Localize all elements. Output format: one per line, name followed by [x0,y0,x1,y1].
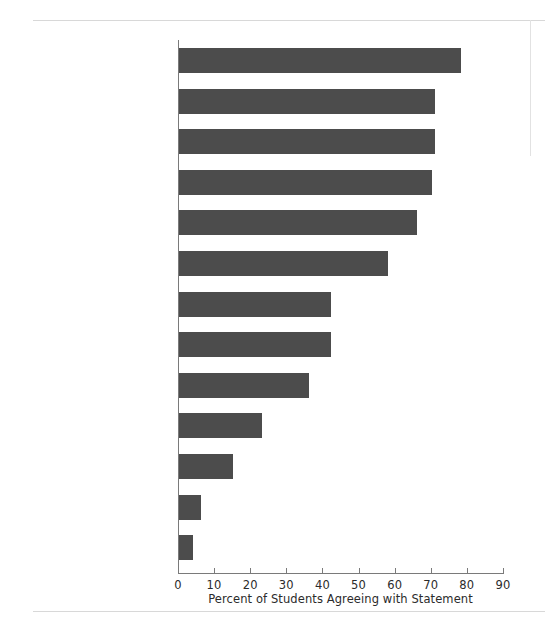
x-axis-tick-label: 20 [230,578,270,592]
x-axis-tick [359,568,360,574]
x-axis-tick-label: 10 [194,578,234,592]
x-axis-tick [286,568,287,574]
figure-container: 0102030405060708090 To learn more aboutt… [0,0,545,636]
x-axis-tick-label: 30 [266,578,306,592]
x-axis-tick [431,568,432,574]
bar-chart-plot: 0102030405060708090 To learn more aboutt… [0,0,545,636]
bar [179,373,309,398]
x-axis-tick [178,568,179,574]
x-axis-tick [250,568,251,574]
bar [179,129,435,154]
bar [179,332,331,357]
x-axis-tick [467,568,468,574]
bar [179,292,331,317]
bar [179,89,435,114]
x-axis-line [178,573,503,574]
bar [179,210,417,235]
bar [179,251,388,276]
bar [179,170,432,195]
x-axis-tick-label: 60 [375,578,415,592]
x-axis-label: Percent of Students Agreeing with Statem… [178,592,503,606]
x-axis-tick [214,568,215,574]
x-axis-tick-label: 0 [158,578,198,592]
x-axis-tick-label: 80 [447,578,487,592]
bar [179,413,262,438]
x-axis-tick-label: 70 [411,578,451,592]
bar [179,535,193,560]
x-axis-tick [503,568,504,574]
x-axis-tick [395,568,396,574]
bar [179,48,461,73]
bar [179,495,201,520]
x-axis-tick-label: 40 [302,578,342,592]
bar [179,454,233,479]
x-axis-tick [322,568,323,574]
x-axis-tick-label: 50 [339,578,379,592]
x-axis-tick-label: 90 [483,578,523,592]
